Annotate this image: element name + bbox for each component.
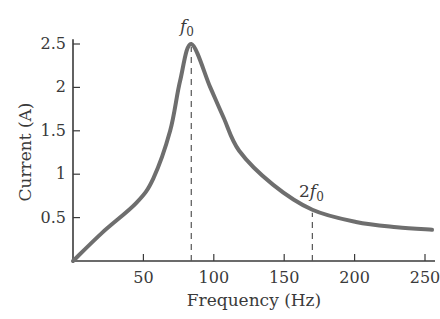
twof0-label: 2f0 bbox=[299, 181, 324, 204]
y-tick-label: 1 bbox=[56, 164, 66, 183]
axes bbox=[73, 39, 435, 261]
x-tick-label: 250 bbox=[410, 268, 440, 287]
resonance-chart: 501001502002500.511.522.5 Frequency (Hz)… bbox=[0, 0, 440, 319]
x-axis-title: Frequency (Hz) bbox=[187, 290, 321, 310]
dashed-markers bbox=[191, 47, 312, 261]
twof0-prefix: 2 bbox=[299, 181, 310, 201]
x-tick-label: 150 bbox=[269, 268, 300, 287]
x-tick-label: 100 bbox=[199, 268, 230, 287]
twof0-sub: 0 bbox=[316, 190, 324, 204]
x-tick-label: 200 bbox=[339, 268, 370, 287]
x-tick-label: 50 bbox=[133, 268, 153, 287]
current-curve bbox=[73, 44, 432, 261]
y-tick-label: 2 bbox=[56, 77, 66, 96]
y-tick-label: 0.5 bbox=[41, 208, 66, 227]
ticks: 501001502002500.511.522.5 bbox=[41, 34, 440, 287]
f0-label: f0 bbox=[178, 16, 194, 39]
y-tick-label: 1.5 bbox=[41, 121, 66, 140]
y-tick-label: 2.5 bbox=[41, 34, 66, 53]
y-axis-title: Current (A) bbox=[15, 103, 35, 202]
f0-sub: 0 bbox=[186, 25, 194, 39]
